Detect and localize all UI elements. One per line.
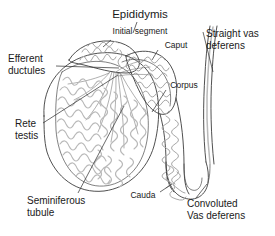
label-convoluted-vas-deferens-line1: Convoluted — [187, 198, 238, 209]
label-seminiferous-tubule: Seminiferous tubule — [27, 195, 85, 218]
label-efferent-ductules-line1: Efferent — [8, 53, 43, 64]
corpus-tubules — [162, 116, 179, 188]
label-seminiferous-tubule-line1: Seminiferous — [27, 195, 85, 206]
cauda-inner-outline — [184, 164, 202, 190]
label-cauda: Cauda — [130, 190, 155, 200]
label-convoluted-vas-deferens: Convoluted Vas deferens — [187, 198, 245, 221]
label-straight-vas-deferens-line2: deferens — [206, 40, 245, 51]
label-rete-testis: Rete testis — [15, 118, 38, 141]
label-initial-segment: Initial segment — [113, 26, 168, 36]
label-rete-testis-line2: testis — [15, 130, 38, 141]
leader-caput — [152, 50, 158, 60]
label-convoluted-vas-deferens-line2: Vas deferens — [187, 210, 245, 221]
label-epididymis: Epididymis — [112, 8, 168, 20]
corpus-group — [160, 98, 189, 194]
leader-cauda — [160, 184, 172, 192]
label-efferent-ductules-line2: ductules — [8, 65, 45, 76]
cauda-group — [166, 162, 208, 200]
caput-group — [122, 51, 177, 114]
label-seminiferous-tubule-line2: tubule — [27, 207, 55, 218]
label-straight-vas-deferens: Straight vas deferens — [206, 28, 259, 51]
label-efferent-ductules: Efferent ductules — [8, 53, 45, 76]
leader-lines — [43, 22, 213, 198]
anatomical-diagram: Epididymis Initial segment Caput Corpus … — [0, 0, 275, 236]
testis-group — [44, 53, 159, 192]
label-straight-vas-deferens-line1: Straight vas — [206, 28, 259, 39]
label-rete-testis-line1: Rete — [15, 118, 37, 129]
label-corpus: Corpus — [170, 80, 197, 90]
caput-tubules — [128, 57, 170, 114]
label-caput: Caput — [165, 40, 188, 50]
